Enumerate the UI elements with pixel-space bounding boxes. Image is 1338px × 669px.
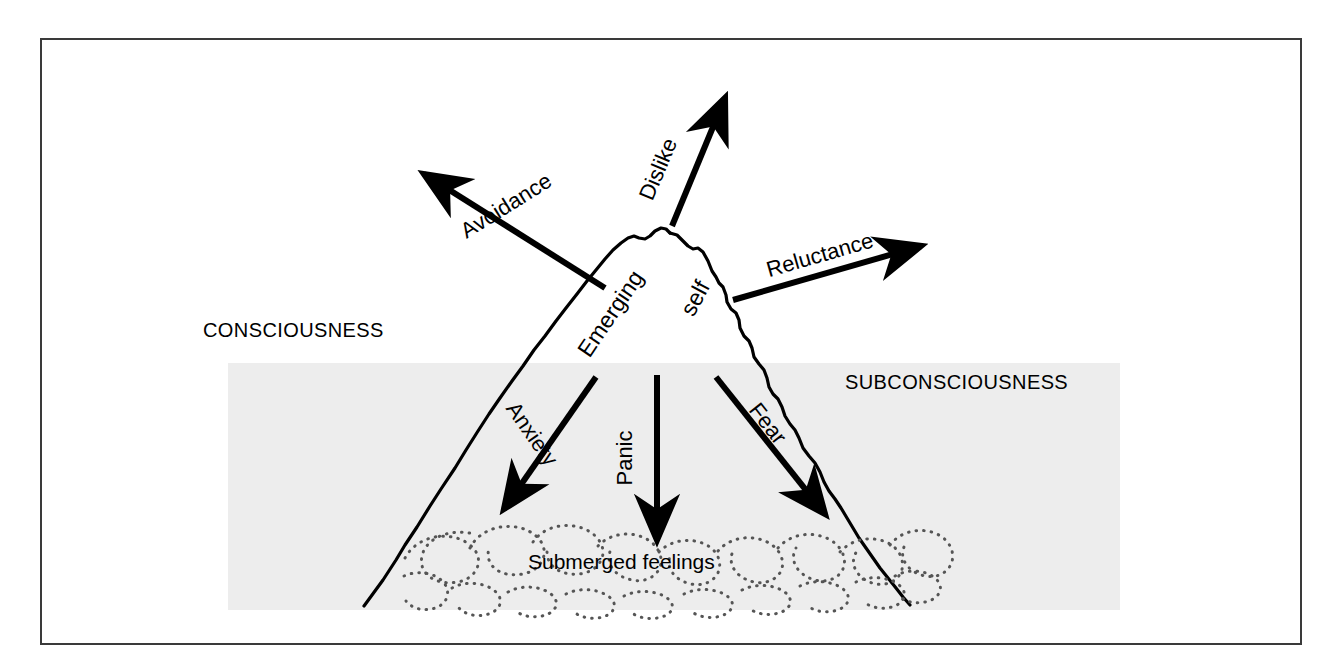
peak-label-emerging: Emerging <box>572 265 649 361</box>
arrow-label-dislike: Dislike <box>634 134 682 203</box>
arrow-label-panic: Panic <box>612 430 637 485</box>
arrow-dislike: Dislike <box>634 98 725 226</box>
diagram-page: Avoidance Dislike Reluctance Anxiety Pan… <box>0 0 1338 669</box>
consciousness-label: CONSCIOUSNESS <box>203 319 384 342</box>
arrow-reluctance: Reluctance <box>733 228 921 300</box>
submerged-feelings-label: Submerged feelings <box>528 550 715 574</box>
arrow-avoidance: Avoidance <box>424 168 605 288</box>
peak-label-self: self <box>675 276 715 320</box>
subconsciousness-label: SUBCONSCIOUSNESS <box>845 371 1068 394</box>
